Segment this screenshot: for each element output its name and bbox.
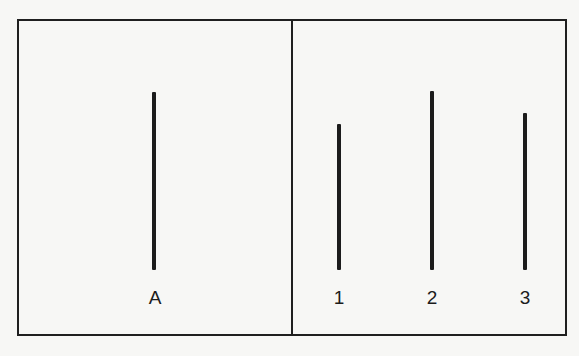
comparison-line-1 — [337, 124, 341, 270]
label-3: 3 — [520, 288, 531, 307]
label-a: A — [149, 288, 162, 307]
label-1: 1 — [334, 288, 345, 307]
comparison-line-3 — [523, 113, 527, 270]
label-2: 2 — [427, 288, 438, 307]
comparison-line-2 — [430, 91, 434, 270]
panel-divider — [291, 19, 293, 336]
standard-line-a — [152, 92, 156, 270]
